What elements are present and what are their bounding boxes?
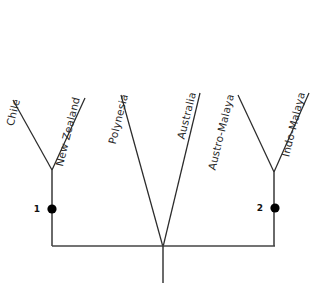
taxon-label-austro-malaya: Austro-Malaya [205, 93, 236, 172]
branch-polynesia [121, 95, 163, 247]
taxon-label-new-zealand: New Zealand [53, 96, 82, 168]
node-label-2: 2 [257, 203, 263, 213]
branch-austro-malaya [238, 95, 274, 172]
node-marker-2 [270, 203, 279, 212]
taxon-label-polynesia: Polynesia [106, 93, 130, 146]
phylogenetic-tree-svg: 1 2 Chile New Zealand Polynesia Australi… [0, 0, 319, 293]
node-marker-1 [47, 204, 56, 213]
cladogram-figure: 1 2 Chile New Zealand Polynesia Australi… [0, 0, 319, 293]
taxon-label-indo-malaya: Indo-Malaya [279, 91, 307, 158]
node-label-1: 1 [34, 204, 40, 214]
